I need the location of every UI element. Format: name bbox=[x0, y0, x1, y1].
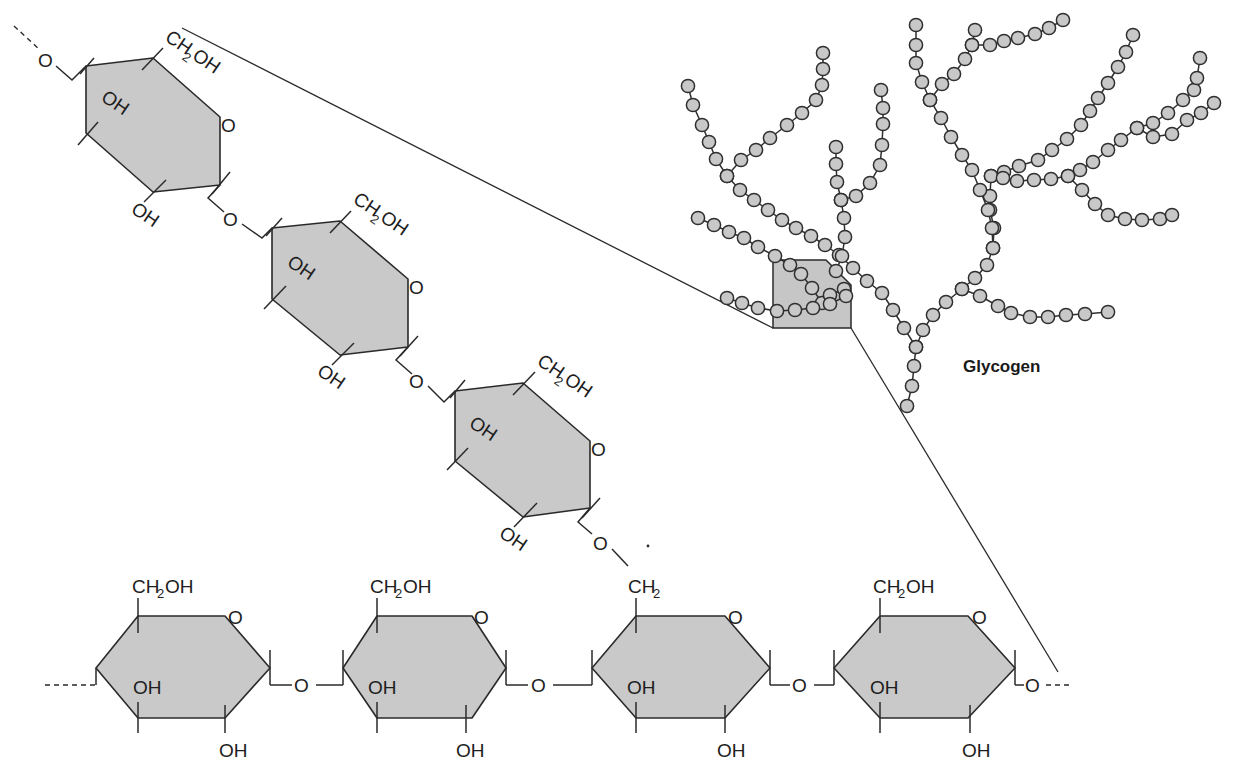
glucose-bead bbox=[702, 135, 715, 148]
glucose-bead bbox=[1010, 174, 1023, 187]
glucose-bead bbox=[875, 138, 888, 151]
glucose-bead bbox=[737, 231, 750, 244]
glucose-bead bbox=[722, 225, 735, 238]
glucose-bead bbox=[735, 296, 748, 309]
branch-glucose-unit-3: CH 2 OH O OH OH O bbox=[447, 350, 628, 566]
glucose-bead bbox=[980, 258, 993, 271]
glucose-bead bbox=[1073, 163, 1086, 176]
glucose-bead bbox=[838, 230, 851, 243]
glucose-bead bbox=[788, 303, 801, 316]
glycosidic-oxygen: O bbox=[531, 675, 546, 696]
glucose-bead bbox=[955, 282, 968, 295]
glucose-bead bbox=[991, 299, 1004, 312]
main-glucose-unit-3-branch-point: CH 2 O OH OH bbox=[592, 576, 790, 761]
glucose-bead bbox=[751, 240, 764, 253]
glucose-bead bbox=[768, 249, 781, 262]
glucose-bead bbox=[1165, 127, 1178, 140]
glycosidic-oxygen: O bbox=[38, 50, 53, 71]
branch-glucose-unit-1: O CH 2 OH O OH OH O bbox=[14, 26, 272, 238]
ring-oxygen: O bbox=[591, 439, 606, 460]
glucose-bead bbox=[1153, 212, 1166, 225]
oh-label: OH bbox=[717, 740, 746, 761]
glucose-bead bbox=[816, 62, 829, 75]
glucose-bead bbox=[783, 258, 796, 271]
glucose-bead bbox=[1060, 132, 1073, 145]
glucose-bead bbox=[1045, 143, 1058, 156]
glucose-bead bbox=[733, 183, 746, 196]
glucose-bead bbox=[968, 271, 981, 284]
glucose-bead bbox=[1083, 104, 1096, 117]
glucose-bead bbox=[1074, 118, 1087, 131]
ch2oh-label: CH bbox=[132, 576, 159, 597]
glucose-bead bbox=[1190, 71, 1203, 84]
glucose-bead bbox=[1075, 183, 1088, 196]
glucose-bead bbox=[944, 130, 957, 143]
oh-label: OH bbox=[189, 44, 224, 77]
oh-label: OH bbox=[219, 740, 248, 761]
ring-oxygen: O bbox=[228, 607, 243, 628]
glucose-bead bbox=[823, 297, 836, 310]
glucose-bead bbox=[1194, 106, 1207, 119]
glucose-bead bbox=[1146, 130, 1159, 143]
glucose-bead bbox=[1041, 310, 1054, 323]
glucose-bead bbox=[1146, 116, 1159, 129]
glucose-bead bbox=[973, 183, 986, 196]
ring-oxygen: O bbox=[221, 115, 236, 136]
glucose-bead bbox=[695, 118, 708, 131]
glucose-bead bbox=[829, 140, 842, 153]
glucose-bead bbox=[809, 93, 822, 106]
glucose-bead bbox=[806, 301, 819, 314]
glucose-bead bbox=[909, 38, 922, 51]
glucose-bead bbox=[905, 379, 918, 392]
glucose-bead bbox=[897, 321, 910, 334]
subscript-2: 2 bbox=[653, 586, 660, 601]
main-glucose-unit-1: CH 2 OH O OH OH bbox=[96, 576, 292, 761]
glycosidic-oxygen: O bbox=[223, 209, 238, 230]
glucose-bead bbox=[1031, 153, 1044, 166]
glucose-bead bbox=[965, 38, 978, 51]
glucose-bead bbox=[923, 93, 936, 106]
glucose-bead bbox=[876, 117, 889, 130]
oh-label: OH bbox=[368, 677, 397, 698]
glucose-bead bbox=[707, 218, 720, 231]
glucose-bead bbox=[835, 249, 848, 262]
glucose-bead bbox=[709, 152, 722, 165]
ring-oxygen: O bbox=[728, 607, 743, 628]
glucose-bead bbox=[804, 229, 817, 242]
glucose-bead bbox=[1059, 308, 1072, 321]
glucose-bead bbox=[815, 78, 828, 91]
glucose-bead bbox=[1011, 31, 1024, 44]
glucose-bead bbox=[834, 193, 847, 206]
glucose-bead bbox=[939, 295, 952, 308]
glucose-bead bbox=[1176, 93, 1189, 106]
glucose-bead bbox=[763, 131, 776, 144]
glucose-bead bbox=[863, 176, 876, 189]
glucose-bead bbox=[837, 211, 850, 224]
oh-label: OH bbox=[496, 522, 531, 555]
main-glucose-unit-2: CH 2 OH O OH OH bbox=[343, 576, 528, 761]
glucose-bead bbox=[973, 289, 986, 302]
main-chain: CH 2 OH O OH OH O CH 2 OH O OH OH bbox=[45, 545, 1072, 761]
glycosidic-oxygen: O bbox=[409, 371, 424, 392]
glucose-bead bbox=[968, 23, 981, 36]
glucose-bead bbox=[875, 286, 888, 299]
glucose-bead bbox=[1088, 197, 1101, 210]
glucose-bead bbox=[984, 169, 997, 182]
glucose-bead bbox=[983, 38, 996, 51]
glucose-bead bbox=[1161, 106, 1174, 119]
glucose-bead bbox=[1004, 306, 1017, 319]
alpha-1-6-oxygen: O bbox=[593, 533, 608, 554]
glucose-bead bbox=[829, 264, 842, 277]
glucose-bead bbox=[830, 175, 843, 188]
glucose-bead bbox=[1135, 213, 1148, 226]
oh-label: OH bbox=[403, 576, 432, 597]
glycogen-structure-diagram: O CH 2 OH O OH OH O CH 2 OH O bbox=[0, 0, 1236, 783]
glucose-bead bbox=[1101, 143, 1114, 156]
glucose-bead bbox=[1023, 310, 1036, 323]
glucose-bead bbox=[909, 18, 922, 31]
glucose-bead bbox=[926, 308, 939, 321]
glucose-bead bbox=[686, 98, 699, 111]
glucose-bead bbox=[1165, 208, 1178, 221]
subscript-2: 2 bbox=[898, 586, 905, 601]
oh-label: OH bbox=[377, 206, 412, 239]
